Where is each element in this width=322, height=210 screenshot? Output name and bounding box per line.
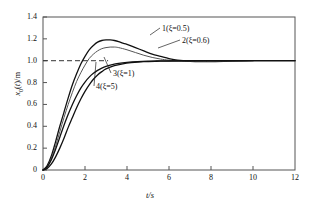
x-tick-label: 4 [117,173,137,182]
chart-figure: x0(t)/m t/s 00.20.40.60.81.01.21.4 02468… [0,0,322,210]
x-tick-label: 2 [75,173,95,182]
y-tick-label: 0.8 [11,78,37,87]
label-curve-3: 3(ξ=1) [113,69,134,78]
label-curve-4: 4(ξ=5) [96,82,117,91]
y-tick-label: 1.0 [11,56,37,65]
y-tick-label: 0.6 [11,99,37,108]
label-curve-2: 2(ξ=0.6) [182,36,209,45]
y-tick-label: 0.4 [11,121,37,130]
x-tick-label: 0 [33,173,53,182]
y-axis-label-sub: 0 [18,89,24,92]
x-tick-label: 8 [201,173,221,182]
y-tick-label: 1.4 [11,12,37,21]
x-axis-label-text: t/s [146,190,154,200]
x-tick-label: 12 [285,173,305,182]
plot-frame [43,17,295,170]
x-tick-label: 10 [243,173,263,182]
y-tick-label: 0.2 [11,143,37,152]
x-axis-label: t/s [146,190,154,200]
label-curve-1: 1(ξ=0.5) [162,24,189,33]
y-axis-label-text: x [12,92,22,96]
y-tick-label: 1.2 [11,34,37,43]
x-tick-label: 6 [159,173,179,182]
